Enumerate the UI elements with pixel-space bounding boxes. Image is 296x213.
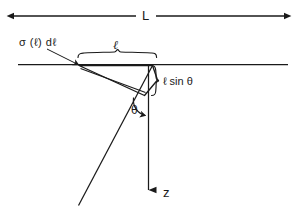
- label-segment-length: ℓ: [113, 39, 118, 51]
- diagonal-line: [79, 66, 153, 206]
- label-crack-density: σ (ℓ) dℓ: [19, 37, 56, 48]
- figure-canvas: L σ (ℓ) dℓ ℓ ℓ sin θ θ z: [0, 0, 296, 213]
- inclined-slab: [79, 66, 158, 96]
- label-depth-axis: z: [163, 186, 170, 199]
- label-vertical-extent: ℓ sin θ: [163, 76, 193, 87]
- label-span-L: L: [142, 9, 149, 22]
- diagram-svg: [0, 0, 296, 213]
- leader-line-sigma: [47, 49, 79, 65]
- label-angle-theta: θ: [131, 104, 138, 116]
